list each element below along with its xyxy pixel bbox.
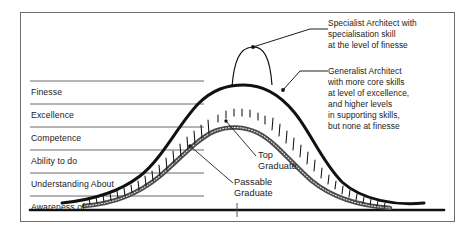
top-graduate-leader-dot — [224, 119, 227, 122]
axis-label-excellence: Excellence — [31, 111, 74, 120]
specialist-leader-line — [253, 29, 328, 47]
diagram-canvas: Finesse Excellence Competence Ability to… — [0, 0, 469, 239]
generalist-leader-line — [283, 71, 328, 90]
passable-graduate-leader-dot — [188, 144, 191, 147]
label-top-graduate: Top Graduate — [258, 150, 297, 173]
specialist-spike — [232, 47, 272, 87]
axis-label-competence: Competence — [31, 134, 81, 143]
specialist-leader-dot — [251, 45, 255, 49]
axis-label-awareness-of: Awareness of — [31, 203, 85, 212]
hatch-ticks-left — [89, 120, 209, 204]
annotation-generalist-architect: Generalist Architect with more core skil… — [328, 66, 450, 133]
label-passable-graduate: Passable Graduate — [234, 177, 273, 200]
axis-label-ability-to-do: Ability to do — [31, 157, 77, 166]
generalist-leader-dot — [281, 88, 285, 92]
axis-label-finesse: Finesse — [31, 88, 62, 97]
passable-graduate-leader-line — [190, 146, 233, 183]
axis-label-understanding-about: Understanding About — [31, 180, 114, 189]
annotation-specialist-architect: Specialist Architect with specialisation… — [328, 18, 450, 51]
